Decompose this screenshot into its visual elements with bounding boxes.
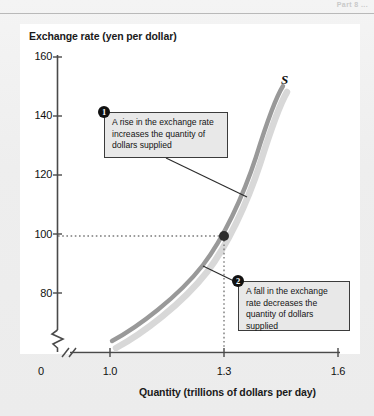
callout-1-number-badge: 1 (98, 106, 110, 118)
callout-box-2: A fall in the exchange rate decreases th… (238, 281, 350, 331)
callout-2-text: A fall in the exchange rate decreases th… (246, 286, 328, 331)
chart-vector-layer (0, 0, 374, 416)
equilibrium-point-marker (219, 231, 229, 241)
callout-1-leader-line (166, 158, 247, 197)
callout-box-1: A rise in the exchange rate increases th… (104, 112, 228, 158)
supply-curve-label: S (281, 72, 288, 88)
callout-2-number-badge: 2 (232, 275, 244, 287)
supply-curve-figure: Part 8 ... Exchange rate (yen per dollar… (0, 0, 374, 416)
callout-1-text: A rise in the exchange rate increases th… (112, 117, 214, 150)
y-axis-break-icon (52, 330, 63, 352)
